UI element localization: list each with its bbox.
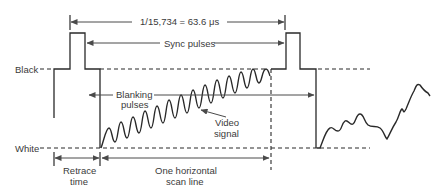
second-blanking-sync-pulse (271, 33, 316, 148)
retrace-time-label-1: Retrace (63, 165, 96, 176)
first-blanking-sync-pulse (54, 33, 100, 148)
video-signal-diagram: Black White 1/15,734 = 63.6 μs Sync puls… (0, 0, 442, 194)
blanking-pulses-label-2: pulses (121, 99, 149, 110)
video-signal-irregular (317, 84, 430, 148)
sync-pulses-label: Sync pulses (164, 38, 215, 49)
period-label: 1/15,734 = 63.6 μs (140, 16, 219, 27)
video-signal-label-2: signal (214, 128, 239, 139)
white-level-label: White (15, 143, 39, 154)
scan-line-label-1: One horizontal (155, 165, 217, 176)
black-level-label: Black (15, 64, 38, 75)
scan-line-label-2: scan line (166, 176, 204, 187)
video-signal-label-1: Video (215, 117, 239, 128)
video-signal-pointer (201, 110, 226, 117)
retrace-time-label-2: time (70, 176, 88, 187)
